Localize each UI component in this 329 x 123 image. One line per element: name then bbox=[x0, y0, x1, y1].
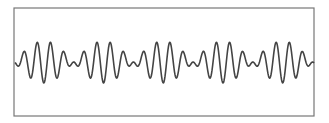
beat-waveform-chart bbox=[0, 0, 329, 123]
plot-frame bbox=[14, 8, 314, 116]
waveform-line bbox=[15, 42, 314, 83]
chart-container bbox=[0, 0, 329, 123]
